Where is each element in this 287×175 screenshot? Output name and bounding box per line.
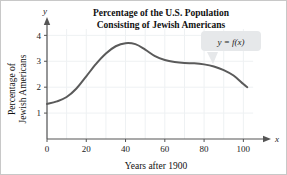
y-axis-title: Percentage of Jewish Americans	[7, 54, 28, 123]
x-axis-variable-label: x	[274, 134, 279, 144]
chart-title-line-2: Consisting of Jewish Americans	[97, 20, 226, 30]
x-tick-labels: 020406080100	[45, 139, 251, 154]
callout-label: y = f(x)	[216, 37, 244, 47]
x-tick-label: 100	[237, 144, 251, 154]
y-tick-label: 4	[37, 31, 42, 41]
chart-title-line-1: Percentage of the U.S. Population	[93, 8, 230, 18]
y-tick-label: 1	[37, 108, 42, 118]
y-axis-variable-label: y	[42, 6, 47, 16]
x-axis-arrowhead	[263, 136, 271, 142]
x-tick-label: 0	[45, 144, 50, 154]
y-tick-label: 2	[37, 82, 42, 92]
x-axis-title: Years after 1900	[125, 161, 188, 171]
y-tick-labels: 1234	[37, 31, 48, 119]
callout-pointer	[207, 52, 218, 64]
y-axis-title-line-2: Jewish Americans	[18, 54, 28, 123]
x-tick-label: 40	[121, 144, 131, 154]
y-tick-label: 3	[37, 56, 42, 66]
chart-canvas: Percentage of the U.S. Population Consis…	[1, 1, 287, 175]
chart-figure: Percentage of the U.S. Population Consis…	[0, 0, 287, 175]
x-tick-label: 60	[160, 144, 170, 154]
x-tick-label: 80	[200, 144, 210, 154]
y-axis-arrowhead	[44, 17, 50, 25]
function-callout: y = f(x)	[201, 31, 261, 64]
y-axis-title-line-1: Percentage of	[7, 62, 17, 115]
x-tick-label: 20	[82, 144, 92, 154]
